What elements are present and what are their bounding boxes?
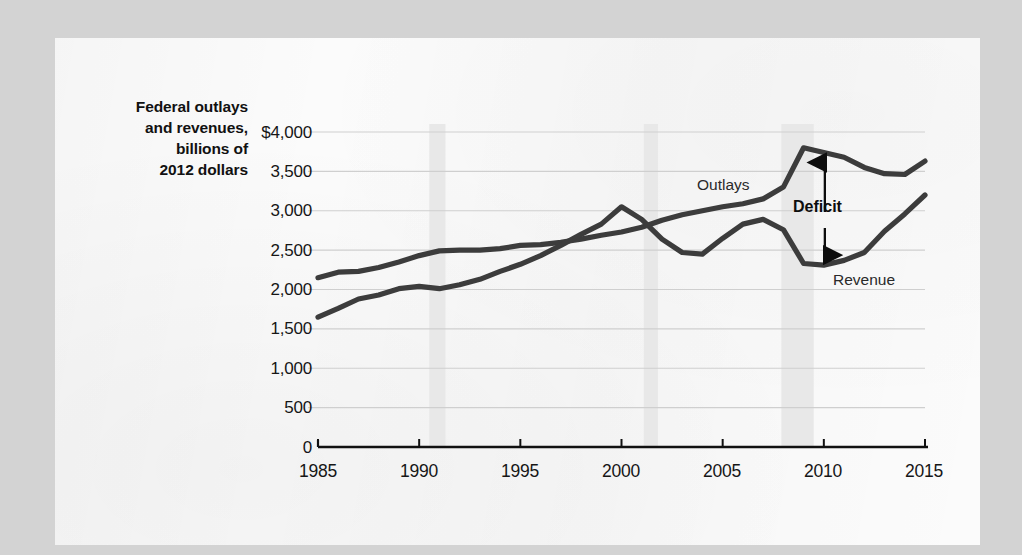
x-tick-label: 2005: [687, 462, 757, 480]
revenue-label: Revenue: [833, 271, 895, 289]
y-tick-label: 2,000: [234, 281, 312, 298]
outlays-label: Outlays: [697, 176, 750, 194]
x-tick-label: 1985: [283, 462, 353, 480]
recession-2001: [644, 124, 658, 447]
recession-bands: [429, 124, 813, 447]
y-tick-label: $4,000: [234, 124, 312, 141]
series-lines: [318, 148, 925, 317]
y-axis-label-line-2: and revenues,: [72, 117, 248, 138]
y-tick-label: 3,000: [234, 202, 312, 219]
axis-lines: [318, 439, 928, 447]
y-tick-label: 3,500: [234, 163, 312, 180]
gridlines: [308, 132, 925, 408]
chart-figure: Federal outlays and revenues, billions o…: [0, 0, 1022, 555]
y-axis-label-line-1: Federal outlays: [72, 96, 248, 117]
recession-2008: [781, 124, 813, 447]
y-tick-label: 0: [234, 439, 312, 456]
y-axis-label: Federal outlays and revenues, billions o…: [72, 96, 248, 180]
x-tick-label: 1995: [485, 462, 555, 480]
y-axis-label-line-3: billions of: [72, 138, 248, 159]
y-tick-label: 2,500: [234, 242, 312, 259]
y-axis-label-line-4: 2012 dollars: [72, 159, 248, 180]
x-tick-label: 2015: [889, 462, 959, 480]
x-tick-label: 1990: [384, 462, 454, 480]
x-tick-label: 2000: [586, 462, 656, 480]
x-tick-label: 2010: [788, 462, 858, 480]
deficit-label: Deficit: [793, 198, 842, 216]
screenshot-canvas: Federal outlays and revenues, billions o…: [0, 0, 1022, 555]
y-tick-label: 1,000: [234, 360, 312, 377]
y-tick-label: 1,500: [234, 320, 312, 337]
y-tick-label: 500: [234, 399, 312, 416]
